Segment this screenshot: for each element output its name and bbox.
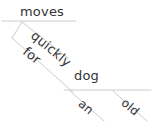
for-hook-line: [12, 22, 22, 38]
word-moves: moves: [20, 5, 64, 18]
word-dog: dog: [74, 69, 99, 82]
sentence-diagram: moves quickly for dog an old: [0, 0, 155, 123]
